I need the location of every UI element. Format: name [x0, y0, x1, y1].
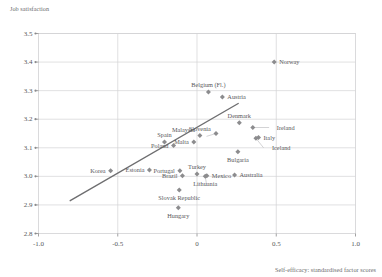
data-point-marker[interactable] [235, 149, 240, 154]
data-point-marker[interactable] [191, 140, 196, 145]
x-axis-title: Self-efficacy: standardised factor score… [275, 266, 376, 273]
data-point-label: Brazil [162, 173, 177, 179]
data-point-label: Ireland [277, 124, 295, 130]
data-point-label: Turkey [188, 164, 206, 170]
data-point-label: Mexico [212, 173, 231, 179]
data-point-label: Iceland [272, 145, 291, 151]
y-axis-tick-dot [34, 61, 36, 63]
y-axis-tick-label: 3.1 [9, 144, 33, 152]
y-axis-tick-label: 3.0 [9, 172, 33, 180]
y-axis-tick-label: 2.9 [9, 201, 33, 209]
y-axis-tick-label: 3.2 [9, 115, 33, 123]
y-axis-tick-dot [34, 90, 36, 92]
data-point-label: Lithuania [193, 181, 217, 187]
y-axis-tick-label: 3.4 [9, 58, 33, 66]
data-point-label: Bulgaria [227, 157, 249, 163]
data-point-marker[interactable] [214, 131, 219, 136]
y-axis-tick-label: 3.3 [9, 87, 33, 95]
label-leader-line [256, 138, 264, 147]
y-axis-tick-label: 3.5 [9, 30, 33, 38]
data-point-label: Malta [174, 139, 189, 145]
data-point-label: Belgium (Fl.) [191, 82, 225, 88]
data-point-label: Denmark [228, 112, 251, 118]
y-axis-tick-dot [34, 118, 36, 120]
data-point-label: Slovenia [189, 125, 211, 131]
y-axis-tick-dot [34, 175, 36, 177]
y-axis-tick-dot [34, 232, 36, 234]
data-point-label: Italy [263, 134, 275, 140]
data-point-marker[interactable] [195, 172, 200, 177]
data-point-marker[interactable] [147, 168, 152, 173]
data-point-label: Australia [240, 172, 263, 178]
data-point-label: Spain [157, 132, 171, 138]
scatter-chart: Job satisfaction 3.53.43.33.23.13.02.92.… [0, 0, 382, 277]
data-point-marker[interactable] [220, 94, 225, 99]
y-axis-tick-dot [34, 32, 36, 34]
data-point-label: Norway [279, 59, 299, 65]
plot-canvas [0, 0, 382, 277]
data-point-marker[interactable] [180, 173, 185, 178]
y-axis-tick-dot [34, 147, 36, 149]
data-point-marker[interactable] [250, 125, 255, 130]
data-point-label: Estonia [126, 167, 145, 173]
x-axis-tick-label: 0 [195, 240, 199, 248]
x-axis-tick-label: -0.5 [112, 240, 123, 248]
y-axis-tick-dot [34, 204, 36, 206]
data-point-marker[interactable] [177, 168, 182, 173]
data-point-label: Korea [90, 167, 105, 173]
data-point-marker[interactable] [197, 133, 202, 138]
x-axis-tick-label: 1.0 [351, 240, 360, 248]
x-axis-tick-label: 0.5 [272, 240, 281, 248]
y-axis-title: Job satisfaction [10, 5, 49, 12]
data-point-label: Poland [151, 142, 169, 148]
x-axis-tick-label: -1.0 [33, 240, 44, 248]
data-point-label: Austria [227, 94, 246, 100]
data-point-marker[interactable] [237, 120, 242, 125]
data-point-marker[interactable] [108, 168, 113, 173]
data-point-label: Slovak Republic [158, 195, 200, 201]
y-axis-tick-label: 2.8 [9, 230, 33, 238]
data-point-label: Hungary [167, 213, 189, 219]
data-point-marker[interactable] [176, 205, 181, 210]
data-point-marker[interactable] [177, 188, 182, 193]
